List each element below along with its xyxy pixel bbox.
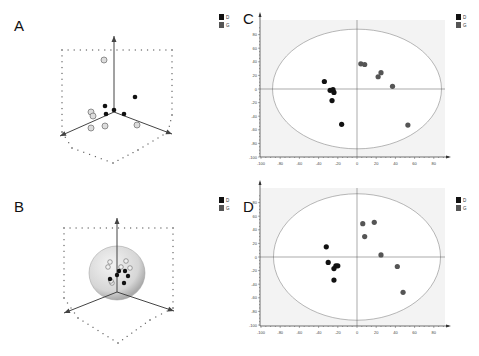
- frame-tick: [140, 326, 141, 327]
- frame-tick: [83, 152, 84, 153]
- data-point-d: [122, 281, 126, 285]
- frame-tick: [86, 49, 87, 50]
- chart-b-3d-scatter: DG: [0, 180, 240, 356]
- frame-tick: [68, 142, 69, 143]
- frame-tick: [148, 227, 149, 228]
- frame-tick: [171, 67, 172, 68]
- frame-tick: [171, 73, 172, 74]
- x-tick-label: 80: [432, 161, 437, 166]
- x-tick-label: -20: [335, 330, 342, 335]
- frame-tick: [87, 324, 88, 325]
- data-point-g: [378, 70, 383, 75]
- frame-tick: [94, 227, 95, 228]
- frame-tick: [166, 227, 167, 228]
- frame-tick: [112, 162, 113, 163]
- frame-tick: [171, 103, 172, 104]
- frame-tick: [63, 274, 64, 275]
- y-tick-label: -20: [251, 100, 258, 105]
- frame-tick: [102, 333, 103, 334]
- y-tick-label: 60: [253, 214, 258, 219]
- frame-tick: [77, 150, 78, 151]
- frame-tick: [165, 49, 166, 50]
- y-tick-label: 80: [253, 32, 258, 37]
- y-axis-arrow-head: [166, 130, 172, 135]
- y-tick-label: -20: [251, 268, 258, 273]
- frame-tick: [131, 333, 132, 334]
- frame-tick: [172, 252, 173, 253]
- data-point-g: [378, 252, 383, 257]
- legend-swatch-d: [456, 197, 461, 203]
- frame-tick: [127, 155, 128, 156]
- y-axis-arrow: [259, 180, 262, 185]
- y-axis-arrow: [259, 12, 262, 17]
- data-point-g: [106, 265, 111, 270]
- x-tick-label: 60: [412, 330, 417, 335]
- frame-tick: [63, 262, 64, 263]
- x-tick-label: 40: [393, 161, 398, 166]
- frame-tick: [100, 227, 101, 228]
- frame-tick: [61, 61, 62, 62]
- legend-swatch-d: [219, 14, 224, 20]
- frame-tick: [61, 73, 62, 74]
- frame-tick: [152, 140, 153, 141]
- data-point-g: [390, 84, 395, 89]
- frame-tick: [172, 258, 173, 259]
- frame-tick: [92, 327, 93, 328]
- data-point-d: [331, 278, 336, 283]
- frame-tick: [117, 160, 118, 161]
- x-tick-label: 20: [374, 330, 379, 335]
- frame-tick: [154, 227, 155, 228]
- data-point-d: [133, 95, 138, 100]
- frame-tick: [63, 280, 64, 281]
- frame-tick: [97, 330, 98, 331]
- data-point-d: [339, 122, 344, 127]
- data-point-d: [108, 277, 112, 281]
- frame-tick: [74, 312, 75, 313]
- x-tick-label: 40: [393, 330, 398, 335]
- frame-tick: [106, 227, 107, 228]
- data-point-d: [324, 244, 329, 249]
- data-point-d: [326, 260, 331, 265]
- frame-tick: [61, 114, 62, 115]
- frame-tick: [172, 283, 173, 284]
- frame-tick: [77, 317, 78, 318]
- data-point-d: [123, 269, 127, 273]
- frame-tick: [147, 49, 148, 50]
- legend-label-d: D: [463, 15, 467, 20]
- legend-swatch-g: [456, 22, 461, 28]
- frame-tick: [107, 160, 108, 161]
- frame-tick: [101, 158, 102, 159]
- frame-tick: [130, 227, 131, 228]
- frame-tick: [157, 137, 158, 138]
- x-tick-label: -80: [277, 161, 284, 166]
- y-axis-arrow: [117, 292, 174, 311]
- y-tick-label: 20: [253, 73, 258, 78]
- frame-tick: [63, 292, 64, 293]
- frame-tick: [68, 49, 69, 50]
- frame-tick: [112, 339, 113, 340]
- frame-tick: [88, 227, 89, 228]
- frame-tick: [127, 336, 128, 337]
- frame-tick: [61, 49, 62, 50]
- legend-label-g: G: [463, 206, 467, 211]
- frame-tick: [65, 137, 66, 138]
- y-tick-label: 40: [253, 59, 258, 64]
- legend-label-d: D: [226, 15, 230, 20]
- frame-tick: [135, 49, 136, 50]
- data-point-d: [115, 273, 119, 277]
- y-tick-label: 0: [255, 255, 258, 260]
- frame-tick: [123, 49, 124, 50]
- frame-tick: [76, 227, 77, 228]
- data-point-g: [362, 234, 367, 239]
- frame-tick: [61, 96, 62, 97]
- x-tick-label: -40: [316, 330, 323, 335]
- frame-tick: [159, 49, 160, 50]
- y-tick-label: 60: [253, 46, 258, 51]
- frame-tick: [142, 227, 143, 228]
- legend-label-g: G: [226, 206, 230, 211]
- data-point-g: [362, 62, 367, 67]
- chart-c-score-plot: -100-80-60-40-20020406080-100-80-60-40-2…: [240, 0, 479, 176]
- frame-tick: [170, 120, 171, 121]
- x-tick-label: -20: [335, 161, 342, 166]
- data-point-g: [88, 125, 94, 131]
